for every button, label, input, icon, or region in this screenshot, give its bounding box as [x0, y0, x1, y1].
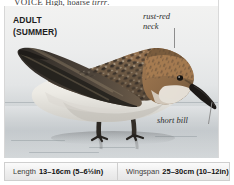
callout-line1: short bill	[157, 115, 188, 125]
callout-rust-red-neck: rust-red neck	[143, 12, 170, 32]
bird-reflection	[51, 131, 175, 145]
stage-label: ADULT (SUMMER)	[13, 14, 57, 39]
stage-label-line1: ADULT	[13, 15, 42, 25]
callout-line2: neck	[143, 21, 159, 31]
measurements-bar: Length 13–16cm (5–6½in) Wingspan 25–30cm…	[4, 162, 230, 181]
bird-bill	[189, 84, 216, 109]
measurement-wingspan: Wingspan 25–30cm (10–12in)	[117, 163, 229, 180]
callout-leader-neck	[174, 28, 175, 48]
bird-head	[142, 46, 197, 105]
measurement-value: 13–16cm (5–6½in)	[39, 167, 103, 176]
measurement-label: Length	[13, 167, 36, 176]
callout-line1: rust-red	[143, 11, 170, 21]
measurement-value: 25–30cm (10–12in)	[162, 167, 228, 176]
measurement-label: Wingspan	[126, 167, 159, 176]
plate-right-rule	[218, 0, 219, 158]
bird-eye	[177, 75, 183, 81]
callout-short-bill: short bill	[157, 116, 188, 126]
field-guide-plate: VOICE High, hoarse tirrr.	[0, 0, 234, 185]
stage-label-line2: (SUMMER)	[13, 27, 57, 37]
measurement-length: Length 13–16cm (5–6½in)	[5, 163, 117, 180]
